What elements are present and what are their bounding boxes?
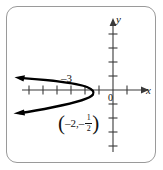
parabola-figure: y x 0 –3 ( –2, – 1 2 )	[0, 0, 163, 170]
vertex-y-sign: –	[79, 118, 85, 129]
vertex-open-paren: (	[58, 113, 65, 134]
y-axis-label: y	[116, 14, 121, 25]
fraction-denominator: 2	[86, 125, 92, 133]
vertex-x-value: –2,	[65, 118, 79, 129]
vertex-close-paren: )	[92, 113, 99, 134]
curve-lower-arrowhead	[14, 110, 26, 116]
coordinate-plane	[0, 0, 163, 170]
vertex-y-fraction: 1 2	[85, 114, 92, 134]
fraction-numerator: 1	[86, 114, 92, 122]
vertex-coordinate-label: ( –2, – 1 2 )	[58, 113, 99, 134]
curve-upper-arrowhead	[15, 75, 26, 81]
x-axis-label: x	[146, 85, 151, 96]
parabola-curve	[14, 75, 94, 115]
origin-label: 0	[108, 93, 113, 103]
x-intercept-label: –3	[61, 73, 72, 84]
